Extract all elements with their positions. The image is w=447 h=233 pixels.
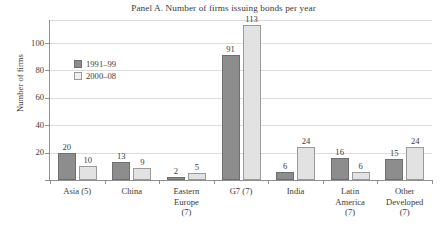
bar-value-label: 10 xyxy=(73,155,103,165)
bar-value-label: 6 xyxy=(346,161,376,171)
x-tick-mark xyxy=(377,180,378,184)
bar xyxy=(133,168,151,180)
y-tick-mark-40 xyxy=(45,125,49,126)
bar xyxy=(276,172,294,180)
bar xyxy=(222,55,240,180)
legend-label-series-0: 1991–99 xyxy=(86,59,116,69)
chart-legend: 1991–99 2000–08 xyxy=(74,58,154,82)
x-tick-mark xyxy=(214,180,215,184)
y-axis-title: Number of firms xyxy=(15,23,25,143)
x-tick-mark xyxy=(323,180,324,184)
gridline-60 xyxy=(50,98,432,99)
y-tick-mark-60 xyxy=(45,98,49,99)
bar xyxy=(352,172,370,180)
x-category-label: Eastern Europe (7) xyxy=(159,186,214,218)
legend-item-series-1: 2000–08 xyxy=(74,70,154,82)
y-tick-label-20: 20 xyxy=(4,147,44,157)
chart-title: Panel A. Number of firms issuing bonds p… xyxy=(0,3,447,13)
y-tick-mark-80 xyxy=(45,70,49,71)
bar-value-label: 24 xyxy=(400,136,430,146)
bar-value-label: 16 xyxy=(325,147,355,157)
bar xyxy=(79,166,97,180)
x-category-label: China xyxy=(105,186,160,197)
bar-value-label: 113 xyxy=(237,14,267,24)
chart-figure: Panel A. Number of firms issuing bonds p… xyxy=(0,0,447,233)
bar-value-label: 24 xyxy=(291,136,321,146)
bar xyxy=(188,173,206,180)
bar xyxy=(167,177,185,180)
bar-value-label: 5 xyxy=(182,162,212,172)
bar xyxy=(385,159,403,180)
x-tick-mark xyxy=(432,180,433,184)
x-category-label: G7 (7) xyxy=(214,186,269,197)
bar-value-label: 20 xyxy=(52,142,82,152)
bar-value-label: 91 xyxy=(216,44,246,54)
x-tick-mark xyxy=(105,180,106,184)
bar xyxy=(297,147,315,180)
bar xyxy=(406,147,424,180)
bar-value-label: 6 xyxy=(270,161,300,171)
x-category-label: Latin America (7) xyxy=(323,186,378,218)
legend-label-series-1: 2000–08 xyxy=(86,71,116,81)
bar-value-label: 15 xyxy=(379,148,409,158)
x-axis-line xyxy=(50,180,432,181)
x-tick-mark xyxy=(50,180,51,184)
x-category-label: Asia (5) xyxy=(50,186,105,197)
legend-item-series-0: 1991–99 xyxy=(74,58,154,70)
legend-swatch-icon-series-1 xyxy=(74,72,82,80)
gridline-40 xyxy=(50,125,432,126)
plot-area: 201013925911136241661524 xyxy=(50,20,432,180)
y-tick-mark-20 xyxy=(45,153,49,154)
y-tick-mark-0 xyxy=(45,180,49,181)
x-category-label: Other Developed (7) xyxy=(377,186,432,218)
x-category-label: India xyxy=(268,186,323,197)
bar xyxy=(243,25,261,180)
x-tick-mark xyxy=(159,180,160,184)
y-tick-mark-100 xyxy=(45,43,49,44)
bar-value-label: 9 xyxy=(127,157,157,167)
x-tick-mark xyxy=(268,180,269,184)
legend-swatch-icon-series-0 xyxy=(74,60,82,68)
